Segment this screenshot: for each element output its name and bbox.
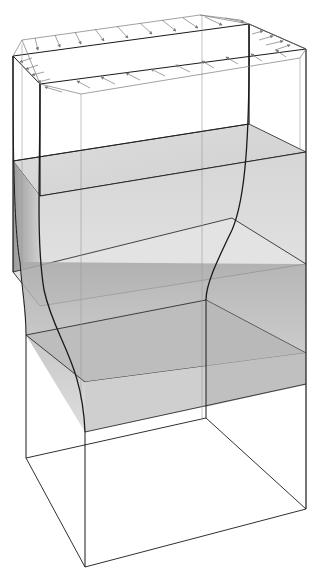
lower-shaded-slab [20, 262, 306, 432]
shear-deformation-diagram [0, 0, 327, 585]
